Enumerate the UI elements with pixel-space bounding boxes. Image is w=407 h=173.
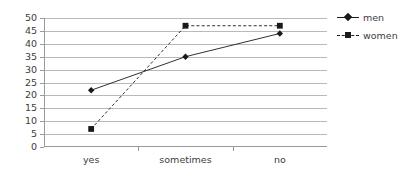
- x-tick-mark: [233, 147, 234, 151]
- y-tick-label: 10: [25, 116, 37, 126]
- y-axis: 50454035302520151050: [0, 0, 44, 173]
- series-women: [88, 23, 282, 132]
- line-chart: 50454035302520151050 yessometimesno menw…: [0, 0, 407, 173]
- legend-label: men: [359, 13, 384, 23]
- data-point-women-sometimes: [183, 23, 189, 29]
- series-line-men: [91, 33, 280, 90]
- series-men: [88, 30, 283, 93]
- y-tick-label: 25: [25, 78, 37, 88]
- legend-item-men[interactable]: men: [337, 10, 407, 25]
- data-point-women-no: [277, 23, 283, 29]
- y-tick-label: 0: [31, 142, 37, 152]
- data-point-men-sometimes: [182, 54, 188, 60]
- x-tick-label: no: [274, 155, 286, 165]
- y-tick-label: 50: [25, 13, 37, 23]
- y-tick-label: 20: [25, 91, 37, 101]
- data-point-men-no: [277, 30, 283, 36]
- x-tick-label: sometimes: [159, 155, 211, 165]
- series-line-women: [91, 26, 280, 129]
- x-tick-label: yes: [83, 155, 99, 165]
- legend: menwomen: [337, 10, 407, 46]
- legend-key-men: [337, 12, 359, 23]
- data-point-men-yes: [88, 87, 94, 93]
- legend-key-women: [337, 30, 359, 41]
- legend-label: women: [359, 31, 398, 41]
- data-series-layer: [44, 18, 327, 147]
- y-tick-label: 45: [25, 26, 37, 36]
- x-tick-mark: [138, 147, 139, 151]
- diamond-marker-icon: [344, 13, 352, 21]
- y-tick-label: 35: [25, 52, 37, 62]
- y-tick-label: 15: [25, 104, 37, 114]
- x-axis: yessometimesno: [44, 147, 327, 173]
- legend-item-women[interactable]: women: [337, 28, 407, 43]
- y-tick-label: 5: [31, 129, 37, 139]
- plot-area: [44, 18, 327, 147]
- square-marker-icon: [345, 32, 351, 38]
- y-tick-label: 40: [25, 39, 37, 49]
- data-point-women-yes: [88, 126, 94, 132]
- y-tick-label: 30: [25, 65, 37, 75]
